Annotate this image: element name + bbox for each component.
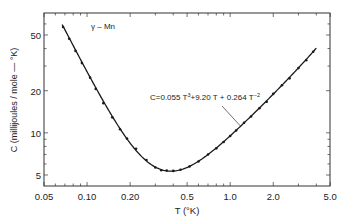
x-tick-label: 0.20 — [121, 191, 140, 202]
annotation-pointer — [222, 106, 240, 126]
x-tick-label: 1.0 — [224, 191, 237, 202]
y-tick-label: 20 — [30, 85, 41, 96]
y-tick-label: 50 — [30, 30, 41, 41]
eq-exponent: −2 — [254, 92, 260, 98]
fit-equation: C=0.055 T3+9.20 T + 0.264 T−2 — [150, 92, 260, 102]
y-tick-label: 10 — [30, 127, 41, 138]
x-tick-label: 0.10 — [78, 191, 97, 202]
x-tick-label: 2.0 — [267, 191, 280, 202]
eq-part: C=0.055 T — [150, 93, 187, 102]
y-axis-label: C (millijoules / mole — °K) — [9, 48, 19, 153]
x-tick-label: 5.0 — [324, 191, 337, 202]
y-tick-label: 5 — [36, 170, 41, 181]
x-axis-label: T (°K) — [175, 205, 200, 216]
chart-title: γ – Mn — [91, 22, 115, 31]
chart-canvas — [0, 0, 348, 222]
x-tick-label: 0.05 — [35, 191, 54, 202]
eq-part: +9.20 T + 0.264 T — [191, 93, 254, 102]
x-tick-label: 0.5 — [180, 191, 193, 202]
